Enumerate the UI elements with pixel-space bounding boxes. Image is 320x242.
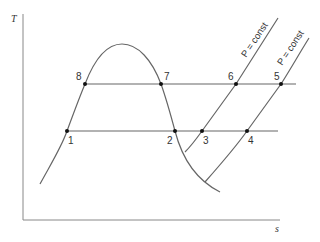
state-point-3 (200, 129, 204, 133)
state-labels: 1 2 3 4 5 6 7 8 (68, 71, 280, 146)
state-label-1: 1 (68, 135, 74, 146)
isobar-low-label: P = const (275, 28, 307, 67)
state-label-3: 3 (203, 135, 209, 146)
state-point-7 (159, 82, 163, 86)
x-axis-label: s (275, 223, 279, 234)
state-point-1 (65, 129, 69, 133)
isobar-high-pressure (185, 18, 278, 152)
y-axis-label: T (11, 13, 18, 24)
isobar-low-pressure (205, 38, 309, 182)
saturation-dome-curve (40, 44, 220, 192)
state-point-6 (234, 82, 238, 86)
axes: T s (11, 13, 280, 234)
state-label-2: 2 (167, 135, 173, 146)
state-point-8 (83, 82, 87, 86)
state-label-7: 7 (164, 71, 170, 82)
state-label-4: 4 (248, 135, 254, 146)
ts-diagram: T s P = const P = const 1 2 3 4 5 6 7 8 (0, 0, 320, 242)
state-point-4 (245, 129, 249, 133)
state-label-5: 5 (274, 71, 280, 82)
state-point-5 (279, 82, 283, 86)
state-label-8: 8 (76, 71, 82, 82)
state-point-2 (173, 129, 177, 133)
state-label-6: 6 (228, 71, 234, 82)
isobar-high-label: P = const (239, 20, 271, 59)
